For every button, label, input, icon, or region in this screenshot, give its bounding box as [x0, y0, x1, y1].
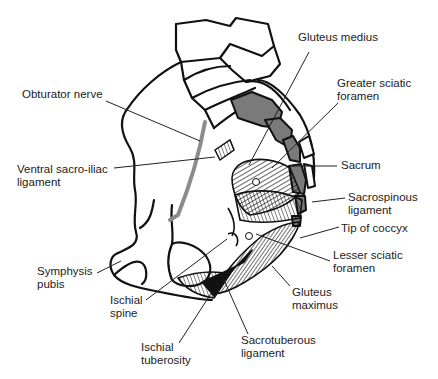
obturator-nerve-path: [170, 122, 205, 220]
label-sacrotuberous-ligament: Sacrotuberous ligament: [241, 334, 316, 360]
label-ventral-sacro-iliac-ligament: Ventral sacro-iliac ligament: [17, 163, 108, 189]
leader-line-ischial-tuberosity: [179, 292, 212, 343]
label-sacrum: Sacrum: [341, 159, 381, 172]
label-symphysis-pubis: Symphysis pubis: [37, 265, 93, 291]
label-gluteus-maximus: Gluteus maximus: [292, 286, 338, 312]
leader-line-ventral-sacro-iliac-ligament: [114, 157, 215, 168]
hip-bone-outline: [111, 18, 315, 300]
label-greater-sciatic-foramen: Greater sciatic foramen: [337, 77, 411, 103]
label-tip-of-coccyx: Tip of coccyx: [341, 222, 408, 235]
greater-sciatic-foramen-dot: [253, 179, 260, 186]
leader-line-sacrospinous-ligament: [312, 198, 345, 202]
label-obturator-nerve: Obturator nerve: [22, 88, 103, 101]
ligament-muscle-mass: [178, 159, 302, 298]
leader-line-obturator-nerve: [106, 101, 200, 141]
lesser-sciatic-foramen-dot: [246, 233, 253, 240]
leader-line-gluteus-maximus: [272, 266, 290, 286]
leader-line-tip-of-coccyx: [300, 227, 339, 238]
label-gluteus-medius: Gluteus medius: [298, 31, 378, 44]
pelvic-anatomy-diagram: Obturator nerveVentral sacro-iliac ligam…: [0, 0, 438, 379]
leader-line-sacrotuberous-ligament: [224, 280, 248, 334]
anatomy-illustration: [0, 0, 438, 379]
label-sacrospinous-ligament: Sacrospinous ligament: [348, 191, 418, 217]
ventral-sacro-iliac-ligament-fan: [215, 140, 234, 160]
label-ischial-tuberosity: Ischial tuberosity: [141, 341, 191, 367]
label-ischial-spine: Ischial spine: [110, 294, 143, 320]
label-lesser-sciatic-foramen: Lesser sciatic foramen: [333, 249, 403, 275]
